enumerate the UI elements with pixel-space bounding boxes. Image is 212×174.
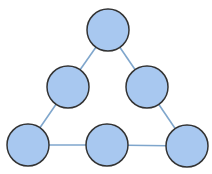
node-bottom-right bbox=[166, 125, 208, 167]
node-mid-left bbox=[47, 66, 89, 108]
triangle-graph-diagram bbox=[0, 0, 212, 174]
nodes bbox=[7, 9, 208, 167]
node-top bbox=[87, 9, 129, 51]
node-mid-right bbox=[126, 66, 168, 108]
node-bottom-mid bbox=[86, 124, 128, 166]
node-bottom-left bbox=[7, 124, 49, 166]
